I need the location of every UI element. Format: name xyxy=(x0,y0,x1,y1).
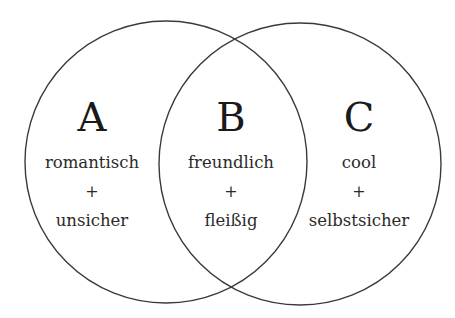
region-b-plus: + xyxy=(224,182,237,201)
region-c-trait-1: cool xyxy=(342,153,376,172)
region-a-plus: + xyxy=(85,182,98,201)
region-c-letter: C xyxy=(344,94,375,140)
region-a-letter: A xyxy=(77,94,108,140)
region-c-trait-2: selbstsicher xyxy=(309,211,410,230)
region-a-trait-1: romantisch xyxy=(45,153,140,172)
region-b-letter: B xyxy=(216,94,245,140)
region-c-plus: + xyxy=(352,182,365,201)
region-a: A romantisch + unsicher xyxy=(45,94,140,230)
venn-diagram: A romantisch + unsicher B freundlich + f… xyxy=(0,0,455,318)
region-b-trait-2: fleißig xyxy=(205,211,258,230)
region-a-trait-2: unsicher xyxy=(56,211,129,230)
region-c: C cool + selbstsicher xyxy=(309,94,410,230)
region-b: B freundlich + fleißig xyxy=(188,94,274,230)
region-b-trait-1: freundlich xyxy=(188,153,274,172)
